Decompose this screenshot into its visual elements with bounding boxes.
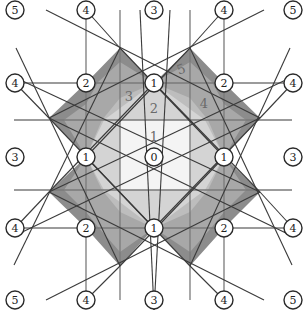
svg-text:3: 3 <box>12 151 19 164</box>
node-level-4: 4 <box>77 291 95 309</box>
node-level-2: 2 <box>215 219 233 237</box>
node-level-0: 0 <box>145 148 163 166</box>
nodes: 0 1 1 1 1 2 2 2 2 3 3 3 3 4 4 4 4 4 4 4 … <box>6 1 302 309</box>
node-level-3: 3 <box>145 291 163 309</box>
node-level-1: 1 <box>215 148 233 166</box>
node-level-3: 3 <box>284 148 302 166</box>
svg-text:1: 1 <box>83 151 90 164</box>
svg-text:4: 4 <box>221 4 228 17</box>
svg-text:2: 2 <box>83 77 90 90</box>
svg-text:2: 2 <box>83 222 90 235</box>
node-level-5: 5 <box>6 1 24 19</box>
octagonal-star-diagram: 1 2 3 4 5 0 1 1 1 1 2 2 2 2 3 3 3 3 4 4 … <box>0 0 307 313</box>
node-level-1: 1 <box>145 74 163 92</box>
node-level-2: 2 <box>215 74 233 92</box>
svg-text:2: 2 <box>221 222 228 235</box>
svg-text:0: 0 <box>151 151 158 164</box>
svg-text:3: 3 <box>290 151 297 164</box>
svg-text:4: 4 <box>12 222 19 235</box>
svg-text:1: 1 <box>151 77 158 90</box>
node-level-3: 3 <box>6 148 24 166</box>
svg-text:4: 4 <box>290 222 297 235</box>
node-level-5: 5 <box>6 291 24 309</box>
svg-text:1: 1 <box>221 151 228 164</box>
node-level-5: 5 <box>284 1 302 19</box>
node-level-4: 4 <box>77 1 95 19</box>
region-label-3: 3 <box>125 89 133 104</box>
svg-text:1: 1 <box>151 222 158 235</box>
node-level-4: 4 <box>6 74 24 92</box>
svg-text:5: 5 <box>12 294 19 307</box>
svg-text:4: 4 <box>221 294 228 307</box>
svg-text:4: 4 <box>290 77 297 90</box>
svg-text:4: 4 <box>12 77 19 90</box>
node-level-4: 4 <box>6 219 24 237</box>
node-level-2: 2 <box>77 74 95 92</box>
node-level-5: 5 <box>284 291 302 309</box>
svg-text:5: 5 <box>290 294 297 307</box>
svg-text:3: 3 <box>151 4 158 17</box>
node-level-1: 1 <box>145 219 163 237</box>
region-label-2: 2 <box>150 101 158 116</box>
node-level-3: 3 <box>145 1 163 19</box>
node-level-4: 4 <box>284 74 302 92</box>
node-level-4: 4 <box>215 1 233 19</box>
node-level-4: 4 <box>284 219 302 237</box>
region-label-1: 1 <box>150 129 158 144</box>
svg-text:5: 5 <box>12 4 19 17</box>
node-level-1: 1 <box>77 148 95 166</box>
node-level-4: 4 <box>215 291 233 309</box>
svg-text:3: 3 <box>151 294 158 307</box>
node-level-2: 2 <box>77 219 95 237</box>
svg-text:5: 5 <box>290 4 297 17</box>
svg-text:2: 2 <box>221 77 228 90</box>
svg-text:4: 4 <box>83 4 90 17</box>
region-label-4: 4 <box>200 96 208 111</box>
svg-text:4: 4 <box>83 294 90 307</box>
